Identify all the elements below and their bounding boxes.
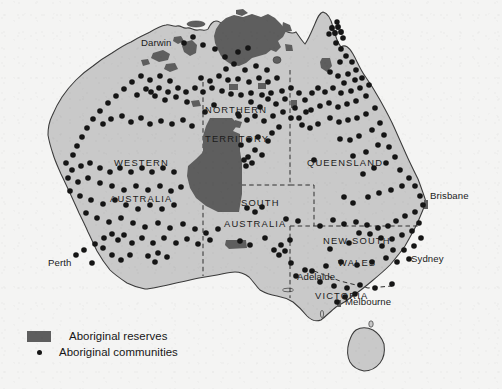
reserve-nt-small-c[interactable] bbox=[258, 83, 266, 89]
island-king bbox=[320, 310, 323, 317]
figure-canvas: NORTHERN TERRITORY WESTERN AUSTRALIA SOU… bbox=[0, 0, 502, 389]
city-label-melbourne: Melbourne bbox=[345, 297, 391, 307]
reserve-nt-small-b[interactable] bbox=[229, 84, 238, 90]
map-legend: Aboriginal reserves Aboriginal communiti… bbox=[27, 328, 178, 360]
state-label-new-south-wales-1: NEW SOUTH bbox=[323, 236, 391, 245]
legend-item-reserves[interactable]: Aboriginal reserves bbox=[27, 328, 178, 344]
island-kangaroo bbox=[283, 288, 294, 292]
state-label-south-australia-1: SOUTH bbox=[241, 198, 280, 207]
state-label-western-australia-1: WESTERN bbox=[114, 158, 169, 167]
tasmania[interactable] bbox=[348, 328, 385, 371]
city-label-darwin: Darwin bbox=[141, 38, 171, 48]
reserve-arnhem-spur-c[interactable] bbox=[285, 44, 293, 51]
island-flinders bbox=[369, 321, 373, 327]
city-label-adelaide: Adelaide bbox=[297, 272, 335, 282]
city-label-perth: Perth bbox=[48, 258, 71, 268]
reserve-yalata[interactable] bbox=[225, 240, 247, 249]
reserve-arnhem-spur-a[interactable] bbox=[236, 9, 248, 16]
legend-item-communities[interactable]: Aboriginal communities bbox=[27, 344, 178, 360]
state-label-northern-territory-2: TERRITORY bbox=[205, 134, 269, 143]
legend-label-reserves: Aboriginal reserves bbox=[69, 330, 167, 342]
state-label-south-australia-2: AUSTRALIA bbox=[224, 219, 286, 228]
community-dot-icon bbox=[37, 350, 42, 355]
island-melville bbox=[187, 21, 205, 27]
city-label-sydney: Sydney bbox=[411, 254, 444, 264]
legend-key-communities bbox=[27, 350, 51, 355]
state-label-western-australia-2: AUSTRALIA bbox=[110, 194, 172, 203]
legend-label-communities: Aboriginal communities bbox=[59, 346, 178, 358]
state-label-new-south-wales-2: WALES bbox=[338, 258, 376, 267]
city-label-brisbane: Brisbane bbox=[430, 191, 469, 201]
state-label-queensland: QUEENSLAND bbox=[307, 158, 383, 167]
state-label-northern-territory-1: NORTHERN bbox=[205, 105, 267, 114]
reserve-swatch-icon bbox=[27, 331, 51, 342]
legend-key-reserves bbox=[27, 331, 61, 342]
island-groote bbox=[273, 57, 281, 64]
